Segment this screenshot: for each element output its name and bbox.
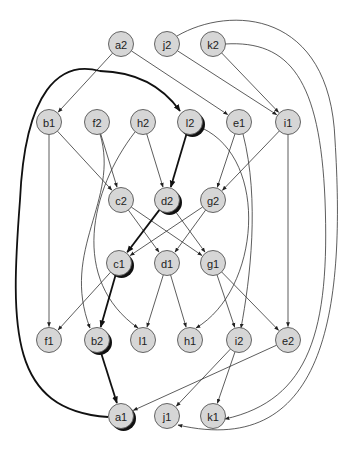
node-label: e2 xyxy=(282,335,294,347)
node-label: c1 xyxy=(113,258,125,270)
edge-k2-to-i1 xyxy=(222,53,279,112)
node-c2[interactable]: c2 xyxy=(109,188,134,213)
node-label: i1 xyxy=(284,117,293,129)
node-label: e1 xyxy=(233,117,245,129)
edge-g2-to-d1 xyxy=(175,210,206,252)
edge-a2-to-b1 xyxy=(58,53,112,112)
node-g2[interactable]: g2 xyxy=(201,188,226,213)
node-c1[interactable]: c1 xyxy=(107,251,135,279)
edge-j2-to-j1 xyxy=(177,20,337,430)
node-j1[interactable]: j1 xyxy=(155,404,180,429)
node-label: a2 xyxy=(115,39,127,51)
node-label: a1 xyxy=(115,411,127,423)
node-i1[interactable]: i1 xyxy=(276,110,301,135)
node-label: f1 xyxy=(44,335,53,347)
edge-k2-to-k1 xyxy=(225,44,326,419)
edge-g1-to-e2 xyxy=(222,272,279,330)
node-label: i2 xyxy=(235,335,244,347)
edge-e1-to-i2 xyxy=(241,134,252,328)
node-e1[interactable]: e1 xyxy=(227,110,252,135)
node-g1[interactable]: g1 xyxy=(201,251,226,276)
node-label: g1 xyxy=(207,258,219,270)
node-label: k1 xyxy=(207,411,219,423)
edge-a2-to-e1 xyxy=(131,51,227,115)
node-d1[interactable]: d1 xyxy=(155,251,180,276)
edges-layer xyxy=(16,20,338,430)
node-i2[interactable]: i2 xyxy=(227,328,252,353)
node-label: f2 xyxy=(92,117,101,129)
edge-d2-to-g1 xyxy=(174,210,205,252)
edge-e2-to-a1 xyxy=(133,345,276,410)
node-b1[interactable]: b1 xyxy=(37,110,62,135)
node-label: b1 xyxy=(43,117,55,129)
edge-h2-to-l1 xyxy=(94,132,138,328)
edge-l2-to-d2 xyxy=(171,134,187,187)
node-h1[interactable]: h1 xyxy=(178,328,203,353)
directed-graph-canvas: a2j2k2b1f2h2l2e1i1c2d2g2c1d1g1f1b2l1h1i2… xyxy=(0,0,354,457)
node-a2[interactable]: a2 xyxy=(109,32,134,57)
node-label: j1 xyxy=(162,411,172,423)
node-label: j2 xyxy=(162,39,172,51)
edge-d1-to-h1 xyxy=(171,275,187,327)
edge-e1-to-g2 xyxy=(217,134,235,187)
node-e2[interactable]: e2 xyxy=(276,328,301,353)
node-f2[interactable]: f2 xyxy=(85,110,110,135)
node-k2[interactable]: k2 xyxy=(201,32,226,57)
node-label: c2 xyxy=(115,195,127,207)
edge-c1-to-b2 xyxy=(101,275,116,327)
node-label: l1 xyxy=(139,335,148,347)
node-l2[interactable]: l2 xyxy=(178,110,206,138)
node-l1[interactable]: l1 xyxy=(131,328,156,353)
edge-l2-to-h1 xyxy=(196,128,249,328)
node-b2[interactable]: b2 xyxy=(85,328,113,356)
node-j2[interactable]: j2 xyxy=(155,32,180,57)
node-label: d2 xyxy=(161,195,173,207)
edge-b1-to-c2 xyxy=(58,131,112,190)
node-label: l2 xyxy=(186,117,195,129)
edge-i2-to-j1 xyxy=(176,349,230,406)
node-k1[interactable]: k1 xyxy=(201,404,226,429)
edge-j2-to-i1 xyxy=(178,51,277,115)
node-label: d1 xyxy=(161,258,173,270)
node-f1[interactable]: f1 xyxy=(37,328,62,353)
node-label: h1 xyxy=(184,335,196,347)
node-label: b2 xyxy=(91,335,103,347)
edge-f2-to-b2 xyxy=(81,134,104,328)
node-label: h2 xyxy=(137,117,149,129)
edge-h2-to-d2 xyxy=(147,134,163,187)
edge-b2-to-a1 xyxy=(101,352,117,403)
node-a1[interactable]: a1 xyxy=(109,404,137,432)
nodes-layer: a2j2k2b1f2h2l2e1i1c2d2g2c1d1g1f1b2l1h1i2… xyxy=(37,32,301,432)
node-label: k2 xyxy=(207,39,219,51)
node-h2[interactable]: h2 xyxy=(131,110,156,135)
edge-d1-to-l1 xyxy=(147,275,163,327)
node-label: g2 xyxy=(207,195,219,207)
